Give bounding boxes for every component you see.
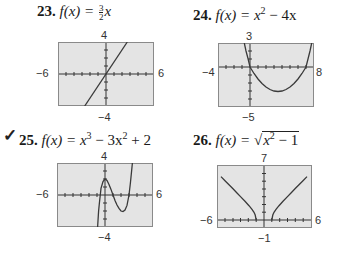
problem-26-title: 26. f(x) = √x2 − 1 xyxy=(193,127,299,149)
function-label: f(x) = xyxy=(42,132,80,148)
graph-24 xyxy=(218,43,314,107)
ymax-label: 3 xyxy=(246,30,252,42)
xmin-label: −6 xyxy=(36,188,49,200)
graph-23 xyxy=(58,42,154,106)
graph-26 xyxy=(217,165,312,228)
graph-25 xyxy=(57,163,153,227)
expression-variable: x xyxy=(104,3,111,19)
checkmark-icon: ✓ xyxy=(3,125,17,146)
problem-25-title: 25. f(x) = x3 − 3x2 + 2 xyxy=(19,127,151,149)
expression-term: − 3x xyxy=(92,132,123,148)
problem-number: 24. xyxy=(193,7,212,23)
xmin-label: −6 xyxy=(36,67,49,79)
xmax-label: 6 xyxy=(156,188,162,200)
radicand: x2 − 1 xyxy=(262,131,299,148)
xmax-label: 6 xyxy=(315,214,321,226)
function-label: f(x) = xyxy=(216,132,254,148)
problem-number: 26. xyxy=(193,132,212,148)
ymax-label: 7 xyxy=(261,152,267,164)
expression-term: x xyxy=(263,132,270,148)
fraction-numerator: 3 xyxy=(99,4,104,12)
ymin-label: −5 xyxy=(242,111,255,123)
ymin-label: −1 xyxy=(258,232,271,244)
expression-term: x xyxy=(254,7,261,23)
expression-rest: + 2 xyxy=(128,132,151,148)
problem-number: 25. xyxy=(19,132,38,148)
fraction: 32 xyxy=(99,4,104,21)
radical-icon: √ xyxy=(254,132,262,148)
graph-frame xyxy=(219,44,314,107)
problem-23-title: 23. f(x) = 32x xyxy=(37,2,111,21)
ymax-label: 4 xyxy=(101,29,107,41)
xmin-label: −4 xyxy=(202,66,215,78)
ymax-label: 4 xyxy=(101,150,107,162)
expression-rest: − 1 xyxy=(275,132,298,148)
fraction-denominator: 2 xyxy=(99,12,104,21)
xmax-label: 6 xyxy=(158,67,164,79)
problem-24-title: 24. f(x) = x2 − 4x xyxy=(193,2,297,24)
expression-rest: − 4x xyxy=(266,7,297,23)
expression-term: x xyxy=(80,132,87,148)
xmin-label: −6 xyxy=(200,214,213,226)
problem-number: 23. xyxy=(37,3,56,19)
ymin-label: −4 xyxy=(98,111,111,123)
xmax-label: 8 xyxy=(316,66,322,78)
ymin-label: −4 xyxy=(98,231,111,243)
function-label: f(x) = xyxy=(216,7,254,23)
function-label: f(x) = xyxy=(60,3,98,19)
